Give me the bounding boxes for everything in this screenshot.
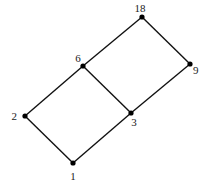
node-2 [22, 113, 27, 118]
edge-1-2 [25, 116, 73, 163]
node-6 [80, 63, 85, 68]
node-label-9: 9 [193, 64, 199, 76]
node-label-1: 1 [70, 170, 76, 182]
labels: 1236918 [12, 2, 200, 182]
node-label-3: 3 [131, 116, 137, 128]
node-label-2: 2 [12, 110, 18, 122]
edge-9-18 [142, 17, 190, 64]
node-label-18: 18 [135, 2, 147, 14]
edge-1-3 [73, 113, 131, 163]
hasse-diagram: 1236918 [0, 0, 211, 191]
node-3 [128, 110, 133, 115]
edge-3-6 [83, 66, 131, 113]
edge-2-6 [25, 66, 83, 116]
node-9 [187, 61, 192, 66]
edges [25, 17, 190, 163]
node-18 [139, 14, 144, 19]
edge-6-18 [83, 17, 142, 66]
node-1 [70, 160, 75, 165]
node-label-6: 6 [75, 52, 81, 64]
edge-3-9 [131, 64, 190, 113]
